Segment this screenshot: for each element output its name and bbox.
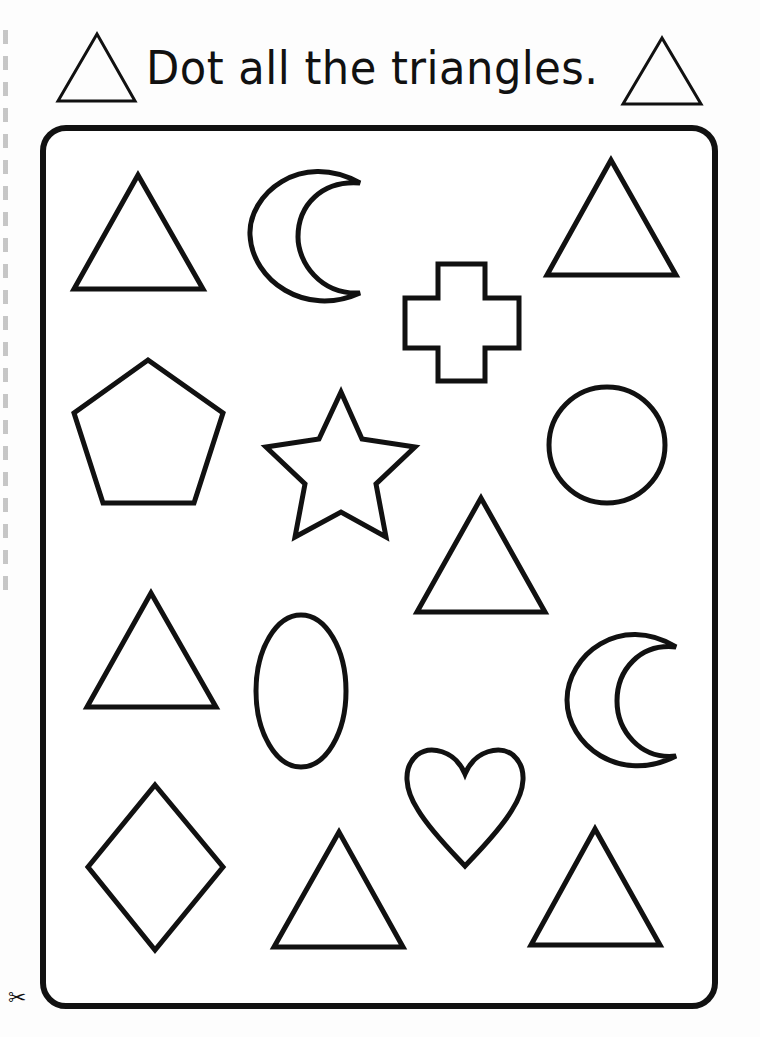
triangle-shape-8[interactable]	[417, 498, 545, 612]
crescent-moon-shape-2[interactable]	[250, 172, 360, 301]
triangle-shape-14[interactable]	[274, 832, 403, 947]
triangle-shape-1[interactable]	[74, 175, 203, 289]
crescent-moon-shape-11[interactable]	[567, 635, 676, 766]
triangle-shape-9[interactable]	[87, 593, 216, 707]
heart-shape-12[interactable]	[407, 750, 523, 866]
triangle-shape-4[interactable]	[547, 160, 676, 275]
cross-shape-3[interactable]	[405, 264, 519, 381]
oval-shape-10[interactable]	[256, 615, 346, 767]
triangle-shape-15[interactable]	[531, 829, 660, 945]
shapes-canvas	[0, 0, 760, 1037]
pentagon-shape-5[interactable]	[74, 360, 223, 503]
scissors-icon: ✂	[8, 985, 26, 1010]
diamond-shape-13[interactable]	[88, 785, 223, 950]
star-shape-6[interactable]	[266, 392, 415, 537]
circle-shape-7[interactable]	[549, 387, 665, 503]
